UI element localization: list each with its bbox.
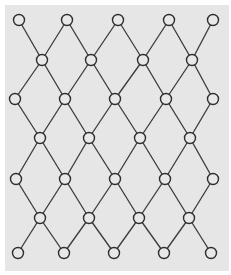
lattice-diagram	[0, 0, 231, 275]
node-r4-c1	[60, 174, 71, 185]
lattice-graph	[0, 0, 231, 275]
node-r6-c4	[206, 248, 217, 259]
node-r5-c3	[184, 213, 195, 224]
node-r2-c4	[208, 94, 219, 105]
node-r6-c0	[13, 248, 24, 259]
node-r2-c1	[60, 94, 71, 105]
node-r2-c0	[10, 94, 21, 105]
node-r6-c2	[109, 248, 120, 259]
node-r3-c3	[185, 133, 196, 144]
node-r0-c3	[164, 15, 175, 26]
node-r5-c2	[134, 213, 145, 224]
node-r3-c1	[84, 133, 95, 144]
node-r0-c1	[62, 15, 73, 26]
node-r3-c0	[35, 133, 46, 144]
node-r4-c0	[11, 174, 22, 185]
node-r5-c0	[35, 213, 46, 224]
node-r4-c3	[160, 174, 171, 185]
node-r2-c2	[110, 94, 121, 105]
node-r1-c1	[86, 55, 97, 66]
node-r6-c3	[159, 248, 170, 259]
node-r0-c2	[113, 15, 124, 26]
node-r4-c4	[208, 174, 219, 185]
node-r1-c3	[187, 55, 198, 66]
node-r3-c2	[135, 133, 146, 144]
node-r1-c2	[138, 55, 149, 66]
node-r6-c1	[59, 248, 70, 259]
node-r2-c3	[161, 94, 172, 105]
node-r1-c0	[37, 55, 48, 66]
node-r0-c4	[208, 15, 219, 26]
node-r4-c2	[110, 174, 121, 185]
node-r5-c1	[84, 213, 95, 224]
node-r0-c0	[14, 15, 25, 26]
